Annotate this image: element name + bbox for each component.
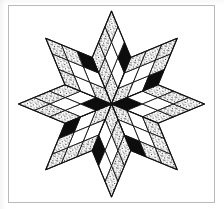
lone-star-diagram xyxy=(8,5,215,203)
page xyxy=(0,0,224,209)
star-arms-layer xyxy=(19,11,205,197)
quilt-block-figure xyxy=(8,5,215,203)
